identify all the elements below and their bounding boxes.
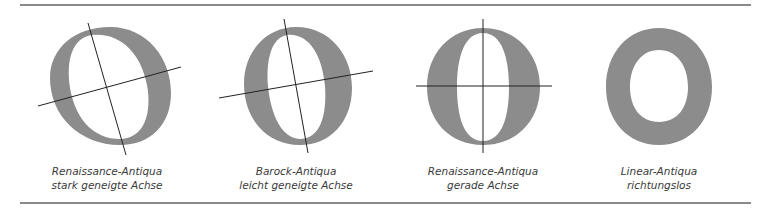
- caption-axis-label: stark geneigte Achse: [17, 178, 197, 192]
- caption-style-label: Renaissance-Antiqua: [393, 164, 573, 178]
- caption-style-label: Linear-Antiqua: [569, 164, 749, 178]
- caption-linear-monoline: Linear-Antiqua richtungslos: [569, 164, 749, 192]
- caption-axis-label: richtungslos: [569, 178, 749, 192]
- caption-barock-slight: Barock-Antiqua leicht geneigte Achse: [206, 164, 386, 192]
- letter-o-barock-slight: [219, 19, 373, 153]
- bottom-rule: [20, 202, 751, 204]
- caption-axis-label: leicht geneigte Achse: [206, 178, 386, 192]
- caption-renaissance-inclined: Renaissance-Antiqua stark geneigte Achse: [17, 164, 197, 192]
- caption-style-label: Renaissance-Antiqua: [17, 164, 197, 178]
- letter-o-vertical-axis: [416, 19, 552, 153]
- caption-style-label: Barock-Antiqua: [206, 164, 386, 178]
- caption-axis-label: gerade Achse: [393, 178, 573, 192]
- letter-o-linear-monoline: [606, 28, 712, 145]
- caption-renaissance-vertical: Renaissance-Antiqua gerade Achse: [393, 164, 573, 192]
- letter-o-renaissance-inclined: [38, 23, 181, 155]
